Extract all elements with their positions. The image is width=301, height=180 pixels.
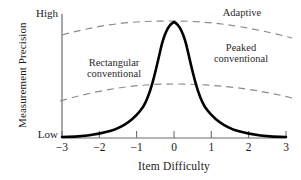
annotation-adaptive: Adaptive <box>206 7 278 18</box>
x-tick-label: 2 <box>236 141 262 153</box>
annotation-adaptive-line-1: Adaptive <box>206 7 278 18</box>
y-axis-label: Measurement Precision <box>16 9 28 141</box>
peaked-conventional-curve <box>62 22 286 137</box>
x-tick-label: 3 <box>273 141 299 153</box>
x-tick-label: −1 <box>124 141 150 153</box>
annotation-peaked-conventional: Peaked conventional <box>198 42 284 64</box>
x-tick-label: 1 <box>198 141 224 153</box>
annotation-rectangular-line-1: Rectangular <box>68 57 160 68</box>
y-tick-label-low: Low <box>22 128 58 140</box>
rectangular-dashed-curve <box>60 84 292 101</box>
x-tick-label: 0 <box>161 141 187 153</box>
x-tick-label: −2 <box>86 141 112 153</box>
x-axis-label: Item Difficulty <box>62 160 286 173</box>
y-tick-label-high: High <box>22 7 58 19</box>
chart-plot-area <box>0 0 301 180</box>
annotation-peaked-line-2: conventional <box>198 53 284 64</box>
x-tick-label: −3 <box>49 141 75 153</box>
annotation-rectangular-conventional: Rectangular conventional <box>68 57 160 79</box>
annotation-peaked-line-1: Peaked <box>198 42 284 53</box>
chart-figure: Measurement Precision High Low −3 −2 −1 … <box>0 0 301 180</box>
annotation-rectangular-line-2: conventional <box>68 68 160 79</box>
